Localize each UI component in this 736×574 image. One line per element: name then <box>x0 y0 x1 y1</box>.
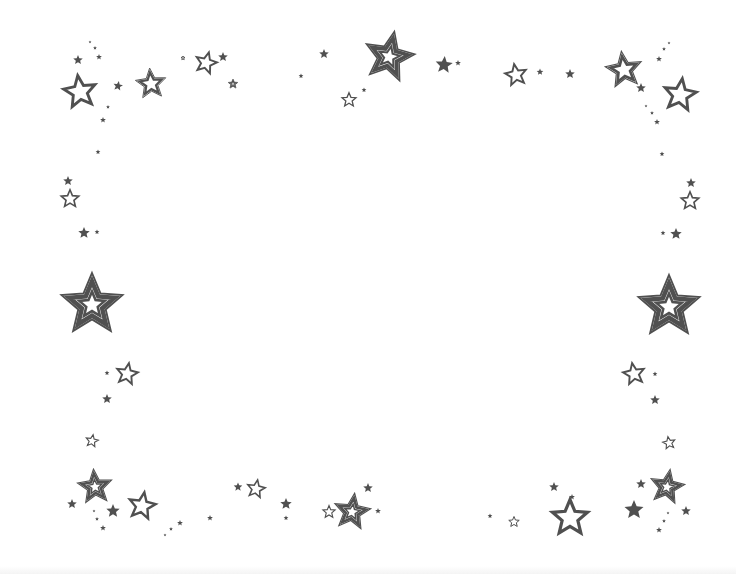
star-solid-shape <box>686 178 696 187</box>
star-solid-shape <box>656 527 662 532</box>
star-icon-solid <box>656 56 662 61</box>
star-icon-solid <box>100 117 106 122</box>
star-solid-shape <box>93 510 96 513</box>
star-icon-solid <box>89 41 92 44</box>
star-icon-solid <box>537 69 544 75</box>
star-solid-shape <box>89 41 92 44</box>
star-solid-shape <box>95 517 99 521</box>
star-solid-shape <box>488 514 493 519</box>
star-icon-solid <box>662 519 666 523</box>
star-icon-solid <box>362 88 367 93</box>
star-icon-solid <box>93 46 97 50</box>
star-icon-solid <box>73 55 83 64</box>
star-outline-shape <box>130 492 156 518</box>
star-solid-shape <box>78 227 89 238</box>
star-icon-solid <box>100 525 106 530</box>
star-icon-outline <box>665 79 696 110</box>
star-outline-shape <box>64 76 95 107</box>
star-icon-solid <box>106 504 119 517</box>
star-icon-solid <box>681 506 691 515</box>
star-outline-shape <box>197 52 217 73</box>
star-icon-solid <box>668 42 671 45</box>
star-solid-shape <box>565 69 575 78</box>
star-solid-shape <box>654 119 660 124</box>
star-icon-outline <box>663 437 675 449</box>
star-solid-shape <box>95 230 100 235</box>
star-outline-shape <box>665 79 696 110</box>
star-outline-shape <box>553 500 588 533</box>
star-icon-solid <box>95 230 100 235</box>
star-icon-outline <box>509 517 519 527</box>
star-icon-outline <box>86 435 98 447</box>
star-icon-solid <box>299 74 304 79</box>
star-icon-solid <box>96 54 102 59</box>
star-solid-shape <box>650 395 660 404</box>
star-solid-shape <box>96 150 101 155</box>
star-icon-solid <box>565 69 575 78</box>
star-icon-triple-outline <box>77 469 111 502</box>
star-outline-shape <box>509 517 519 527</box>
star-outline-shape <box>181 56 185 60</box>
star-icon-solid <box>624 500 643 518</box>
star-solid-shape <box>284 516 289 521</box>
star-solid-shape <box>660 152 665 157</box>
star-icon-solid <box>436 56 453 73</box>
star-solid-shape <box>177 520 183 525</box>
star-icon-outline <box>681 192 699 209</box>
star-solid-shape <box>624 500 643 518</box>
star-solid-shape <box>375 508 381 513</box>
star-outline-shape <box>323 506 335 518</box>
star-icon-solid <box>169 527 173 531</box>
star-middle-ring <box>372 38 408 74</box>
star-icon-triple-outline <box>639 275 700 333</box>
star-solid-shape <box>668 42 671 45</box>
star-icon-solid <box>218 52 228 61</box>
star-icon-outline <box>623 363 644 384</box>
star-solid-shape <box>73 55 83 64</box>
star-solid-shape <box>436 56 453 73</box>
star-icon-solid <box>656 527 662 532</box>
star-solid-shape <box>218 52 228 61</box>
star-outline-shape <box>61 190 79 207</box>
star-solid-shape <box>67 499 77 508</box>
star-solid-shape <box>114 81 123 90</box>
star-icon-solid <box>177 520 183 525</box>
star-icon-outline <box>61 190 79 207</box>
star-icon-solid <box>207 515 213 520</box>
star-icon-solid <box>114 81 123 90</box>
star-outline-shape <box>623 363 644 384</box>
star-solid-shape <box>105 371 110 376</box>
star-solid-shape <box>106 504 119 517</box>
star-outline-shape <box>86 435 98 447</box>
star-icon-outline <box>323 506 335 518</box>
star-icon-double-outline <box>135 68 165 98</box>
star-icon-outline <box>505 64 526 85</box>
star-icon-solid <box>280 498 291 509</box>
star-icon-solid <box>549 482 559 491</box>
star-icon-solid <box>650 395 660 404</box>
star-solid-shape <box>96 54 102 59</box>
star-outline-shape <box>342 93 356 106</box>
star-icon-solid <box>375 508 381 513</box>
star-icon-solid <box>106 105 110 109</box>
star-icon-solid <box>78 227 89 238</box>
star-icon-solid <box>661 231 666 236</box>
star-inner-ring <box>611 56 637 82</box>
star-icon-solid <box>164 534 167 537</box>
star-icon-solid <box>319 49 329 58</box>
star-solid-shape <box>636 479 646 488</box>
star-solid-shape <box>661 231 666 236</box>
star-icon-outline <box>248 480 265 497</box>
star-icon-solid <box>488 514 493 519</box>
stars-layer <box>61 32 699 537</box>
star-outline-shape <box>117 363 138 384</box>
star-icon-outline <box>553 500 588 533</box>
star-icon-outline <box>181 56 185 60</box>
star-solid-shape <box>100 525 106 530</box>
star-icon-triple-outline <box>651 469 685 503</box>
star-icon-outline <box>117 363 138 384</box>
star-icon-solid <box>96 150 101 155</box>
star-icon-solid <box>650 111 654 115</box>
star-icon-solid <box>105 371 110 376</box>
star-solid-shape <box>455 60 461 65</box>
